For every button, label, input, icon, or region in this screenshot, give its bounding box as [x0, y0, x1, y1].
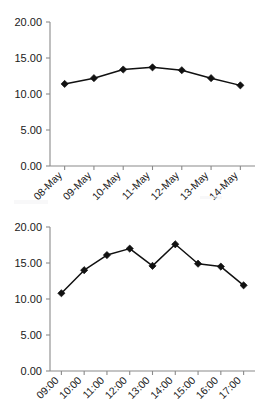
y-tick-label: 15.00	[14, 257, 42, 269]
data-point-marker	[120, 66, 127, 73]
x-tick-label: 10-May	[89, 168, 123, 202]
x-tick-label: 16:00	[193, 374, 220, 401]
data-point-marker	[237, 82, 244, 89]
chart-panel-daily: 0.005.0010.0015.0020.0008-May09-May10-Ma…	[0, 0, 267, 205]
data-point-marker	[90, 75, 97, 82]
x-tick-label: 17:00	[216, 374, 243, 401]
chart-panel-hourly: 0.005.0010.0015.0020.0009:0010:0011:0012…	[0, 205, 267, 410]
x-tick-label: 14-May	[207, 168, 241, 202]
x-tick-label: 11-May	[119, 168, 152, 201]
data-point-marker	[178, 67, 185, 74]
x-tick-label: 12-May	[148, 168, 182, 202]
y-tick-label: 5.00	[21, 124, 42, 136]
x-tick-label: 14:00	[148, 374, 175, 401]
x-tick-label: 09-May	[60, 168, 94, 202]
data-point-marker	[207, 75, 214, 82]
y-tick-label: 20.00	[14, 16, 42, 28]
x-tick-label: 09:00	[34, 374, 61, 401]
line-chart-daily: 0.005.0010.0015.0020.0008-May09-May10-Ma…	[0, 0, 267, 205]
y-tick-label: 15.00	[14, 52, 42, 64]
line-chart-hourly: 0.005.0010.0015.0020.0009:0010:0011:0012…	[0, 205, 267, 410]
x-tick-label: 13:00	[125, 374, 152, 401]
y-tick-label: 10.00	[14, 88, 42, 100]
y-tick-label: 5.00	[21, 329, 42, 341]
y-tick-label: 10.00	[14, 293, 42, 305]
y-tick-label: 0.00	[21, 160, 42, 172]
x-tick-label: 10:00	[57, 374, 84, 401]
x-tick-label: 11:00	[80, 374, 107, 401]
x-tick-label: 12:00	[102, 374, 129, 401]
data-point-marker	[61, 80, 68, 87]
x-tick-label: 15:00	[170, 374, 197, 401]
y-tick-label: 0.00	[21, 365, 42, 377]
y-tick-label: 20.00	[14, 221, 42, 233]
x-tick-label: 08-May	[31, 168, 65, 202]
data-point-marker	[149, 64, 156, 71]
x-tick-label: 13-May	[177, 168, 211, 202]
